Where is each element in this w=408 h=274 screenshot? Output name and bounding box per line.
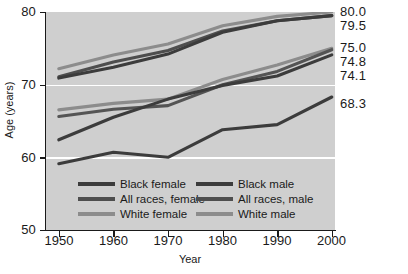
x-tick-label-1970: 1970 xyxy=(146,233,190,248)
legend-label: All races, female xyxy=(120,193,205,205)
legend-item-black-female: Black female xyxy=(78,178,196,190)
y-tick-label-60: 60 xyxy=(2,150,36,165)
end-value-74-8: 74.8 xyxy=(340,54,366,69)
x-tick-label-1960: 1960 xyxy=(92,233,136,248)
legend-label: All races, male xyxy=(238,193,313,205)
legend-item-all-races-male: All races, male xyxy=(196,193,328,205)
legend-item-black-male: Black male xyxy=(196,178,328,190)
legend-swatch-icon xyxy=(196,212,233,216)
end-value-68-3: 68.3 xyxy=(340,96,366,111)
x-axis xyxy=(45,230,336,231)
legend-swatch-icon xyxy=(78,182,115,186)
legend-label: Black female xyxy=(120,178,186,190)
end-value-75: 75.0 xyxy=(340,40,366,55)
legend-label: White female xyxy=(120,208,187,220)
legend-label: White male xyxy=(238,208,296,220)
y-tick-label-50: 50 xyxy=(2,222,36,237)
end-value-74-1: 74.1 xyxy=(340,68,366,83)
legend-swatch-icon xyxy=(196,182,233,186)
x-tick-label-1950: 1950 xyxy=(37,233,81,248)
line-black-male xyxy=(59,97,332,164)
legend-swatch-icon xyxy=(78,212,115,216)
line-black-female xyxy=(59,16,332,79)
y-axis-title: Age (years) xyxy=(3,75,15,145)
legend-swatch-icon xyxy=(196,197,233,201)
x-tick-label-1980: 1980 xyxy=(201,233,245,248)
legend-swatch-icon xyxy=(78,197,115,201)
x-tick-label-2000: 2000 xyxy=(310,233,354,248)
y-tick-label-80: 80 xyxy=(2,4,36,19)
legend-item-all-races-female: All races, female xyxy=(78,193,196,205)
end-value-80: 80.0 xyxy=(340,4,366,19)
y-tick-50 xyxy=(40,230,46,231)
x-tick-label-1990: 1990 xyxy=(255,233,299,248)
legend-label: Black male xyxy=(238,178,294,190)
legend-item-white-female: White female xyxy=(78,208,196,220)
life-expectancy-line-chart: 80 70 60 50 1950 1960 1970 1980 1990 200… xyxy=(0,0,408,274)
chart-legend: Black female Black male All races, femal… xyxy=(78,176,328,221)
end-value-79-5: 79.5 xyxy=(340,18,366,33)
x-axis-title: Year xyxy=(0,253,380,265)
legend-item-white-male: White male xyxy=(196,208,328,220)
